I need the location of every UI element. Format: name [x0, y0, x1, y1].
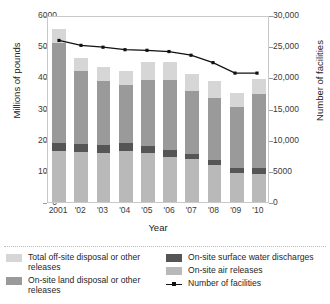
y-tick-label-right: 30,000	[273, 11, 325, 20]
x-tick-label: '10	[243, 206, 273, 215]
legend-item-label: On-site air releases	[188, 265, 263, 275]
facilities-line-marker	[167, 50, 170, 53]
facilities-line-marker	[123, 48, 126, 51]
x-axis-title: Year	[47, 222, 269, 233]
y-tick-mark-right	[269, 141, 273, 142]
legend-swatch	[166, 254, 182, 262]
facilities-line-marker	[189, 54, 192, 57]
legend-line-icon	[166, 280, 182, 288]
y-tick-label-right: 5000	[273, 167, 325, 176]
chart-figure: Millions of pounds Number of facilities …	[0, 0, 330, 304]
facilities-line-series	[48, 17, 268, 202]
plot-area	[47, 16, 269, 203]
facilities-line-marker	[57, 39, 60, 42]
y-tick-label-right: 25,000	[273, 42, 325, 51]
legend-swatch	[6, 254, 22, 262]
facilities-line-marker	[101, 46, 104, 49]
legend-item-label: Total off-site disposal or other release…	[28, 252, 171, 272]
legend-column-2: On-site surface water dischargesOn-site …	[166, 252, 330, 291]
y-tick-mark-right	[269, 47, 273, 48]
facilities-line-marker	[79, 44, 82, 47]
legend-item: On-site surface water discharges	[166, 252, 330, 262]
y-tick-mark-right	[269, 110, 273, 111]
facilities-line-marker	[255, 72, 258, 75]
legend-item-label: Number of facilities	[188, 278, 261, 288]
y-tick-mark-right	[269, 78, 273, 79]
legend-item: Number of facilities	[166, 278, 330, 288]
y-tick-label-right: 0	[273, 198, 325, 207]
legend-item: On-site land disposal or other releases	[6, 275, 171, 295]
legend-swatch	[166, 267, 182, 275]
y-tick-mark-left	[43, 203, 47, 204]
legend-divider	[4, 246, 326, 247]
legend: Total off-site disposal or other release…	[0, 252, 330, 304]
facilities-line-marker	[233, 72, 236, 75]
legend-column-1: Total off-site disposal or other release…	[6, 252, 171, 298]
y-tick-mark-right	[269, 203, 273, 204]
facilities-line	[59, 40, 257, 73]
facilities-line-marker	[211, 61, 214, 64]
legend-item-label: On-site land disposal or other releases	[28, 275, 171, 295]
facilities-line-marker	[145, 49, 148, 52]
y-tick-mark-right	[269, 172, 273, 173]
legend-item-label: On-site surface water discharges	[188, 252, 314, 262]
y-tick-label-right: 10,000	[273, 136, 325, 145]
legend-item: Total off-site disposal or other release…	[6, 252, 171, 272]
y-tick-label-right: 15,000	[273, 105, 325, 114]
y-tick-label-right: 20,000	[273, 73, 325, 82]
legend-item: On-site air releases	[166, 265, 330, 275]
legend-swatch	[6, 277, 22, 285]
y-tick-mark-right	[269, 16, 273, 17]
